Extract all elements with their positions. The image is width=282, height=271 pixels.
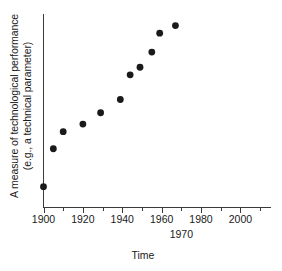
- x-axis-tick-label: 1960: [142, 213, 182, 225]
- scatter-chart-figure: A measure of technological performance (…: [0, 0, 282, 271]
- data-point: [156, 30, 163, 37]
- data-point: [127, 71, 134, 78]
- x-axis-tick-label: 1920: [63, 213, 103, 225]
- data-point: [50, 145, 57, 152]
- x-axis-label: Time: [113, 249, 173, 261]
- data-point: [117, 96, 124, 103]
- data-point: [79, 121, 86, 128]
- data-point: [137, 64, 144, 71]
- x-axis-tick-label: 2000: [220, 213, 260, 225]
- data-point: [40, 183, 47, 190]
- x-axis-tick-label: 1900: [24, 213, 64, 225]
- plot-area: [0, 0, 282, 271]
- data-point: [148, 49, 155, 56]
- x-axis-ticks: [45, 208, 261, 213]
- x-axis-tick-label: 1980: [181, 213, 221, 225]
- x-axis-tick-label: 1940: [102, 213, 142, 225]
- data-point: [60, 128, 67, 135]
- data-point: [172, 22, 179, 29]
- data-point: [97, 109, 104, 116]
- data-point-group: [40, 22, 179, 190]
- annotation-1970: 1970: [161, 228, 201, 240]
